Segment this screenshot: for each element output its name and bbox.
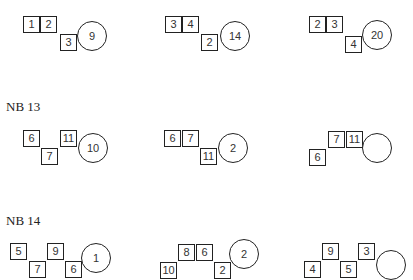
number-box: 2 (201, 34, 218, 51)
number-box: 11 (60, 130, 77, 147)
number-box: 4 (182, 16, 199, 33)
number-box: 3 (60, 34, 77, 51)
number-box: 5 (340, 261, 357, 278)
number-box: 9 (322, 243, 339, 260)
number-box: 2 (309, 16, 326, 33)
answer-circle[interactable] (376, 250, 406, 280)
answer-circle[interactable] (362, 133, 392, 163)
section-label: NB 14 (6, 213, 40, 229)
number-box: 6 (309, 149, 326, 166)
number-box: 7 (29, 261, 46, 278)
number-box: 8 (178, 244, 195, 261)
section-label: NB 13 (6, 99, 40, 115)
number-box: 3 (326, 16, 343, 33)
number-box: 4 (304, 261, 321, 278)
sum-circle: 1 (81, 243, 111, 273)
number-box: 6 (23, 130, 40, 147)
number-box: 5 (10, 243, 27, 260)
number-box: 2 (214, 262, 231, 279)
sum-circle: 2 (229, 239, 259, 269)
number-box: 7 (182, 130, 199, 147)
sum-circle: 9 (77, 21, 107, 51)
number-box: 1 (23, 16, 40, 33)
number-box: 6 (196, 244, 213, 261)
number-box: 2 (40, 16, 57, 33)
sum-circle: 20 (362, 20, 392, 50)
number-box: 3 (165, 16, 182, 33)
number-box: 7 (41, 148, 58, 165)
sum-circle: 14 (220, 21, 250, 51)
number-box: 10 (160, 262, 177, 279)
number-box: 6 (65, 261, 82, 278)
number-box: 4 (345, 36, 362, 53)
sum-circle: 2 (218, 133, 248, 163)
number-box: 6 (164, 130, 181, 147)
number-box: 9 (47, 243, 64, 260)
number-box: 3 (358, 243, 375, 260)
number-box: 11 (200, 148, 217, 165)
number-box: 7 (328, 131, 345, 148)
number-box: 11 (346, 131, 363, 148)
sum-circle: 10 (78, 133, 108, 163)
